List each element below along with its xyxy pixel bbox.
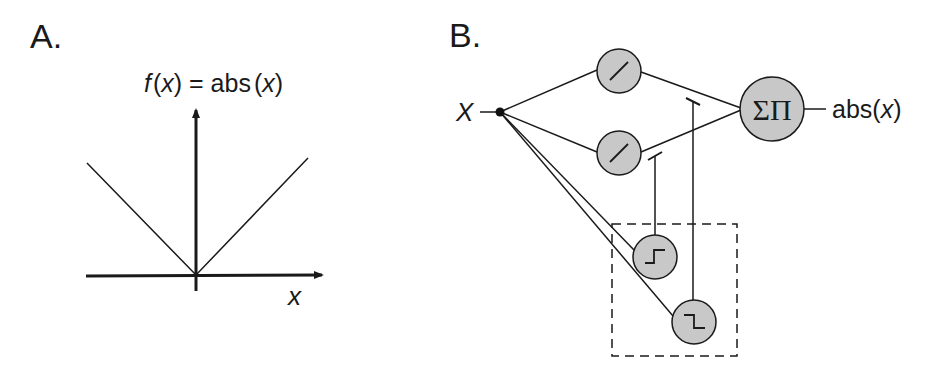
node-linear-pos — [597, 49, 641, 93]
input-connections — [500, 70, 673, 316]
input-node-dot — [496, 108, 505, 117]
node-step-down — [672, 300, 716, 344]
x-axis — [86, 275, 322, 276]
figure-canvas: A. f(x) = abs(x) x B. X — [0, 0, 931, 377]
sum-product-symbol: ΣΠ — [752, 93, 791, 126]
panel-a: A. f(x) = abs(x) x — [30, 17, 322, 311]
input-label: X — [455, 97, 475, 127]
node-step-up — [633, 235, 677, 279]
x-axis-label: x — [286, 281, 302, 311]
edge-input-step-down — [500, 112, 673, 316]
edge-input-linear-pos — [500, 70, 597, 112]
svg-text:f(x) = abs(x): f(x) = abs(x) — [144, 69, 283, 97]
hidden-to-output-edges — [641, 72, 741, 152]
step-units-box — [612, 224, 737, 356]
output-label: abs(x) — [832, 95, 901, 123]
plot-title: f(x) = abs(x) — [144, 69, 283, 97]
edge-linear-neg-output — [641, 110, 741, 152]
edge-linear-pos-output — [641, 72, 741, 108]
node-sum-product: ΣΠ — [740, 77, 804, 141]
edge-input-linear-neg — [500, 112, 597, 152]
panel-b: B. X — [449, 16, 901, 356]
panel-a-label: A. — [30, 17, 62, 55]
panel-b-label: B. — [449, 16, 481, 54]
node-linear-neg — [597, 131, 641, 175]
